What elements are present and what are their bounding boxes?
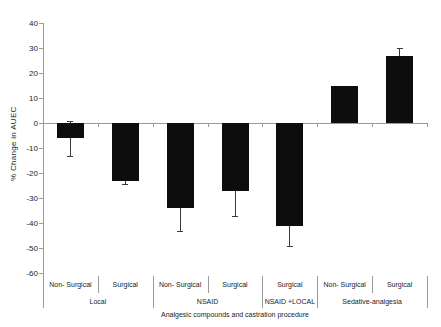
y-tick-label: -40 <box>16 219 38 228</box>
y-tick-label: 40 <box>16 19 38 28</box>
y-tick <box>39 273 43 274</box>
x-axis-title: Analgesic compounds and castration proce… <box>43 311 427 318</box>
y-tick <box>39 98 43 99</box>
group-label: Local <box>43 297 153 306</box>
y-tick <box>39 173 43 174</box>
error-bar-cap <box>67 121 73 122</box>
group-label: NSAID <box>153 297 263 306</box>
y-axis-line <box>43 23 44 308</box>
group-label: Sedative-analgesia <box>317 297 427 306</box>
group-divider <box>427 276 428 308</box>
category-label: Surgical <box>262 280 317 289</box>
category-tick <box>317 123 318 127</box>
error-bar-cap <box>397 48 403 49</box>
category-divider <box>372 276 373 293</box>
category-divider <box>208 276 209 293</box>
category-tick <box>427 123 428 127</box>
bar <box>386 56 413 124</box>
bar <box>222 123 249 191</box>
category-divider <box>98 276 99 293</box>
y-tick-label: -60 <box>16 269 38 278</box>
category-tick <box>372 123 373 127</box>
y-tick <box>39 223 43 224</box>
category-tick <box>208 123 209 127</box>
category-label: Non- Surgical <box>317 280 372 289</box>
y-tick <box>39 48 43 49</box>
y-tick <box>39 73 43 74</box>
category-label: Non- Surgical <box>43 280 98 289</box>
y-tick-label: -50 <box>16 244 38 253</box>
category-tick <box>98 123 99 127</box>
category-label: Surgical <box>98 280 153 289</box>
bar <box>112 123 139 181</box>
y-tick-label: 30 <box>16 44 38 53</box>
category-label: Non- Surgical <box>153 280 208 289</box>
group-label: NSAID +LOCAL <box>262 297 317 306</box>
error-bar-cap <box>287 246 293 247</box>
bar <box>57 123 84 138</box>
category-tick <box>153 123 154 127</box>
error-bar-cap <box>67 156 73 157</box>
category-label: Surgical <box>372 280 427 289</box>
y-tick-label: -20 <box>16 169 38 178</box>
error-bar-cap <box>232 216 238 217</box>
y-tick-label: -10 <box>16 144 38 153</box>
y-tick-label: 0 <box>16 119 38 128</box>
y-tick-label: 10 <box>16 94 38 103</box>
error-bar-cap <box>177 231 183 232</box>
bar-chart: % Change in AUEC Analgesic compounds and… <box>0 0 441 327</box>
y-tick <box>39 248 43 249</box>
bar <box>276 123 303 226</box>
category-label: Surgical <box>208 280 263 289</box>
y-tick <box>39 148 43 149</box>
y-tick-label: -30 <box>16 194 38 203</box>
y-tick <box>39 198 43 199</box>
error-bar-cap <box>122 184 128 185</box>
y-tick-label: 20 <box>16 69 38 78</box>
category-tick <box>262 123 263 127</box>
bar <box>167 123 194 208</box>
y-tick <box>39 23 43 24</box>
bar <box>331 86 358 124</box>
category-tick <box>43 123 44 127</box>
